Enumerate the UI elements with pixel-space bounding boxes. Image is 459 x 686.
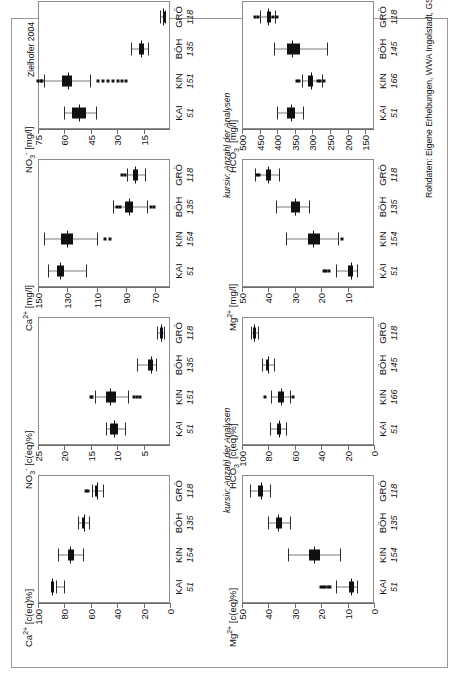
y-tick	[90, 129, 91, 134]
y-tick	[347, 603, 348, 608]
group-count: 51	[388, 105, 398, 120]
y-tick	[38, 287, 39, 292]
group-label: GRÖ118	[174, 322, 195, 344]
whisker-cap	[257, 327, 258, 340]
plot-frame	[242, 317, 374, 445]
y-tick-label: 250	[324, 135, 335, 151]
median-line	[134, 167, 135, 184]
axis-title: Ca2+ [mg/l]	[22, 285, 34, 331]
group-count: 118	[388, 164, 398, 186]
y-tick-label: 40	[262, 293, 273, 304]
value-axis	[38, 287, 170, 288]
outlier-point	[40, 80, 43, 83]
plot-frame	[38, 1, 170, 129]
outlier-point	[318, 80, 321, 83]
median-line	[290, 105, 291, 122]
outlier-point	[328, 586, 331, 589]
y-tick	[347, 129, 348, 134]
whisker-cap	[156, 359, 157, 372]
whisker-cap	[127, 391, 128, 404]
y-tick	[38, 129, 39, 134]
group-label: BÖH145	[378, 39, 399, 60]
y-tick	[268, 287, 269, 292]
group-count: 151	[184, 73, 194, 89]
group-count: 51	[184, 579, 194, 594]
group-count: 118	[388, 6, 398, 28]
whisker-cap	[86, 265, 87, 278]
source-note: Rohdaten: Eigene Erhebungen, WWA Ingolst…	[424, 0, 434, 198]
y-tick	[38, 445, 39, 450]
whisker-cap	[137, 359, 138, 372]
y-tick	[64, 129, 65, 134]
whisker-cap	[251, 327, 252, 340]
group-name: GRÖ	[173, 164, 184, 186]
median-line	[261, 483, 262, 500]
value-axis	[242, 445, 374, 446]
whisker-cap	[56, 581, 57, 594]
group-name: BÖH	[173, 197, 184, 218]
outlier-point	[123, 174, 126, 177]
y-tick-label: 40	[111, 609, 122, 620]
y-tick-label: 10	[111, 451, 122, 462]
y-tick-label: 10	[342, 293, 353, 304]
group-count: 135	[388, 513, 398, 534]
y-tick	[143, 129, 144, 134]
y-tick-label: 60	[85, 609, 96, 620]
y-tick	[374, 603, 375, 608]
whisker-cap	[95, 391, 96, 404]
group-count: 118	[184, 164, 194, 186]
whisker-cap	[270, 423, 271, 436]
y-tick	[321, 603, 322, 608]
median-line	[128, 199, 129, 216]
median-line	[350, 263, 351, 280]
panel-hco3-eq: 100806040200HCO3- [c(eq)%]KAI51KIN166BÖH…	[242, 317, 374, 445]
median-line	[313, 547, 314, 564]
group-name: BÖH	[377, 197, 388, 218]
whisker-cap	[131, 43, 132, 56]
panel-hco3-mgl: 500450400350300250200150HCO3- [mg/l]KAI5…	[242, 1, 374, 129]
y-tick-label: 300	[306, 135, 317, 151]
group-label: KIN166	[378, 73, 399, 89]
rotated-figure-canvas: 100806040200Ca2+ [c(eq)%]KAI51KIN154BÖH1…	[20, 23, 440, 663]
group-label: GRÖ118	[378, 322, 399, 344]
whisker-cap	[285, 233, 286, 246]
outlier-point	[327, 270, 330, 273]
whisker-cap	[160, 11, 161, 24]
y-tick	[242, 287, 243, 292]
group-name: KAI	[377, 105, 388, 120]
group-label: KAI51	[174, 579, 195, 594]
group-name: KIN	[377, 231, 388, 247]
y-tick	[268, 445, 269, 450]
whisker-cap	[335, 265, 336, 278]
group-name: GRÖ	[173, 322, 184, 344]
group-count: 51	[184, 421, 194, 436]
group-count: 145	[388, 355, 398, 376]
y-tick-label: 60	[289, 451, 300, 462]
group-count: 135	[184, 513, 194, 534]
median-line	[268, 167, 269, 184]
y-tick	[67, 287, 68, 292]
group-count: 135	[184, 197, 194, 218]
axis-title: Ca2+ [c(eq)%]	[22, 589, 34, 647]
median-line	[114, 421, 115, 438]
plot-frame	[242, 1, 374, 129]
box-iqr	[287, 44, 300, 55]
median-line	[51, 579, 52, 596]
value-axis	[38, 603, 170, 604]
panel-ca-eq: 100806040200Ca2+ [c(eq)%]KAI51KIN154BÖH1…	[38, 475, 170, 603]
group-name: BÖH	[173, 39, 184, 60]
group-label: BÖH135	[174, 513, 195, 534]
group-name: KAI	[377, 579, 388, 594]
y-tick	[117, 129, 118, 134]
y-tick	[96, 287, 97, 292]
group-name: KAI	[173, 579, 184, 594]
box-iqr	[61, 76, 72, 87]
group-name: GRÖ	[173, 480, 184, 502]
outlier-point	[116, 80, 119, 83]
group-name: BÖH	[377, 513, 388, 534]
y-tick	[170, 603, 171, 608]
group-label: GRÖ118	[174, 6, 195, 28]
y-tick-label: 40	[262, 609, 273, 620]
y-tick	[294, 287, 295, 292]
y-tick-label: 80	[262, 451, 273, 462]
